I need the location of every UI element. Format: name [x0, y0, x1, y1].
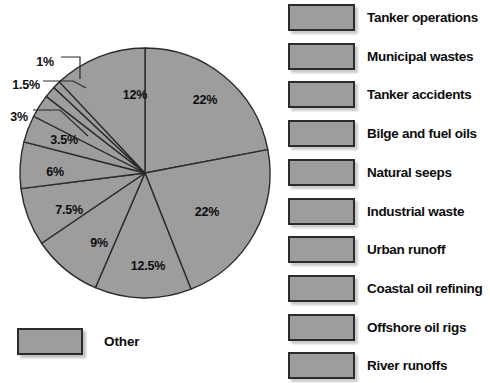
legend-item: River runoffs	[288, 352, 447, 379]
pie-slice-label: 1%	[36, 55, 54, 69]
legend-swatch-other	[17, 328, 83, 355]
pie-slice-label: 1.5%	[12, 78, 40, 92]
legend-item: Bilge and fuel oils	[288, 120, 477, 147]
legend-label: River runoffs	[367, 358, 447, 373]
legend-label: Natural seeps	[367, 165, 452, 180]
pie-slice-label: 22%	[193, 93, 217, 107]
legend-swatch	[288, 275, 355, 302]
legend-label: Municipal wastes	[367, 49, 473, 64]
legend-swatch	[288, 159, 355, 186]
pie-slice-label: 6%	[46, 165, 64, 179]
legend-item: Industrial waste	[288, 198, 464, 225]
chart-legend: Tanker operationsMunicipal wastesTanker …	[288, 0, 490, 383]
legend-item: Natural seeps	[288, 159, 452, 186]
pie-slice-label: 9%	[90, 236, 108, 250]
legend-label: Tanker operations	[367, 10, 478, 25]
pie-slice-label: 22%	[195, 205, 219, 219]
legend-swatch	[288, 43, 355, 70]
legend-label: Bilge and fuel oils	[367, 126, 477, 141]
legend-swatch	[288, 4, 355, 31]
pie-chart-area: 22%22%12.5%9%7.5%6%3.5%3%1.5%1%12% Other	[0, 0, 285, 383]
legend-label-other: Other	[104, 334, 140, 349]
legend-label: Offshore oil rigs	[367, 320, 466, 335]
legend-swatch	[288, 236, 355, 263]
legend-swatch	[288, 352, 355, 379]
pie-slice-label: 7.5%	[55, 203, 83, 217]
pie-slice-label: 12%	[123, 88, 147, 102]
legend-label: Coastal oil refining	[367, 281, 483, 296]
pie-slice-label: 12.5%	[131, 259, 165, 273]
legend-label: Urban runoff	[367, 242, 445, 257]
legend-label: Industrial waste	[367, 204, 464, 219]
legend-item: Offshore oil rigs	[288, 314, 466, 341]
pie-slice-label: 3.5%	[50, 133, 78, 147]
legend-item: Municipal wastes	[288, 43, 473, 70]
pie-chart-figure: 22%22%12.5%9%7.5%6%3.5%3%1.5%1%12% Other…	[0, 0, 490, 383]
pie-slice-label: 3%	[10, 110, 28, 124]
legend-item-other: Other	[17, 328, 140, 355]
legend-label: Tanker accidents	[367, 87, 472, 102]
legend-swatch	[288, 81, 355, 108]
legend-swatch	[288, 120, 355, 147]
legend-swatch	[288, 314, 355, 341]
legend-item: Tanker operations	[288, 4, 478, 31]
legend-item: Urban runoff	[288, 236, 445, 263]
legend-item: Coastal oil refining	[288, 275, 483, 302]
legend-swatch	[288, 198, 355, 225]
legend-item: Tanker accidents	[288, 81, 472, 108]
